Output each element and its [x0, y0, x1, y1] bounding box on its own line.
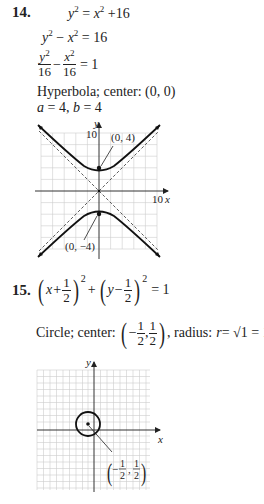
svg-text:2: 2	[120, 470, 125, 481]
problem-15-equation: ( x+ 12 )2 + ( y− 12 )2 = 1	[36, 275, 170, 305]
circle-center-point	[86, 422, 90, 426]
x-axis-label: x	[164, 193, 170, 205]
problem-15-number: 15.	[12, 282, 31, 299]
vertex-top-label: (0, 4)	[111, 131, 135, 144]
circle-graph: y x ( − 1 2 , 1 2 )	[0, 350, 264, 504]
problem-15-description: Circle; center: ( − 12 , 12 ) , radius: …	[36, 318, 264, 348]
svg-text:): )	[141, 458, 146, 487]
center-point	[98, 190, 100, 192]
vertex-top-point	[97, 166, 101, 170]
svg-text:2: 2	[134, 470, 139, 481]
x-axis-label: x	[157, 433, 163, 445]
hyperbola-graph: y 10 (0, 4) 10 x (0, −4)	[0, 0, 264, 280]
vertex-bottom-point	[97, 212, 101, 216]
svg-text:−: −	[112, 463, 118, 475]
y-tick-10: 10	[86, 128, 98, 140]
svg-text:1: 1	[134, 458, 139, 469]
x-tick-10: 10	[152, 193, 164, 205]
svg-text:1: 1	[120, 458, 125, 469]
svg-text:,: ,	[128, 463, 131, 475]
vertex-bottom-label: (0, −4)	[65, 240, 95, 253]
y-axis-label: y	[85, 356, 91, 368]
